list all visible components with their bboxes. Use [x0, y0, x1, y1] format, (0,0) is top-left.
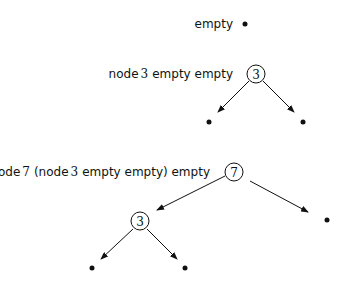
- edge-right-arrow: [263, 81, 294, 112]
- empty-leaf-dot: [207, 120, 212, 125]
- empty-leaf-dot: [325, 218, 330, 223]
- empty-leaf-dot: [90, 266, 95, 271]
- edge-right-arrow: [250, 181, 308, 212]
- tree-node-value: 3: [136, 215, 144, 229]
- tree-node-value: 3: [252, 68, 260, 82]
- edge-left-arrow: [157, 176, 225, 210]
- diagram-empty: empty: [195, 17, 248, 31]
- expression-label-empty: empty: [195, 17, 234, 31]
- expression-label-node3: node3empty empty: [109, 67, 233, 81]
- edge-left-arrow: [101, 229, 133, 259]
- expression-label-node7: node7(node3empty empty) empty: [0, 165, 210, 179]
- edge-left-arrow: [218, 81, 249, 112]
- empty-leaf-dot: [301, 120, 306, 125]
- empty-leaf-dot: [243, 22, 248, 27]
- empty-leaf-dot: [183, 266, 188, 271]
- edge-right-arrow: [147, 229, 177, 259]
- diagram-node3: node3empty empty 3: [109, 65, 306, 125]
- tree-node-value: 7: [230, 166, 238, 180]
- diagram-node7: node7(node3empty empty) empty 7 3: [0, 163, 330, 271]
